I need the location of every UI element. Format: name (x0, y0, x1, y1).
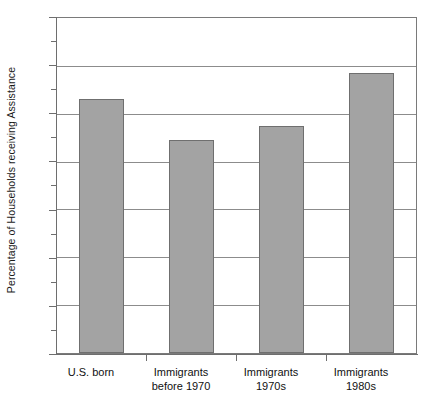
x-axis-label-line1: Immigrants (154, 366, 208, 378)
x-axis-label-line2: 1980s (306, 379, 416, 393)
bar (259, 126, 304, 353)
y-axis-line (56, 17, 57, 355)
x-tick (146, 355, 147, 361)
y-tick-minor (51, 282, 56, 283)
y-tick-major (49, 306, 56, 307)
y-tick-minor (51, 89, 56, 90)
y-tick-minor (51, 234, 56, 235)
x-axis-label-line1: Immigrants (244, 366, 298, 378)
y-tick-minor (51, 185, 56, 186)
y-tick-minor (51, 330, 56, 331)
gridline (57, 66, 416, 67)
y-tick-major (49, 161, 56, 162)
x-axis-label: Immigrants 1980s (306, 365, 416, 393)
y-axis-title-text: Percentage of Households receiving Assis… (5, 67, 17, 293)
bar (79, 99, 124, 353)
y-tick-major (49, 210, 56, 211)
y-tick-major (49, 354, 56, 355)
plot-area (56, 17, 417, 354)
bar-chart: Percentage of Households receiving Assis… (0, 0, 428, 401)
x-axis-label-line1: Immigrants (334, 366, 388, 378)
x-axis-line (56, 354, 418, 355)
x-axis-label-line1: U.S. born (68, 366, 114, 378)
y-tick-minor (51, 137, 56, 138)
bar (349, 73, 394, 353)
y-tick-minor (51, 41, 56, 42)
x-tick (326, 355, 327, 361)
bar (169, 140, 214, 353)
y-tick-major (49, 65, 56, 66)
y-axis-title: Percentage of Households receiving Assis… (0, 0, 22, 360)
x-tick (236, 355, 237, 361)
y-tick-major (49, 258, 56, 259)
y-tick-major (49, 17, 56, 18)
y-tick-major (49, 113, 56, 114)
